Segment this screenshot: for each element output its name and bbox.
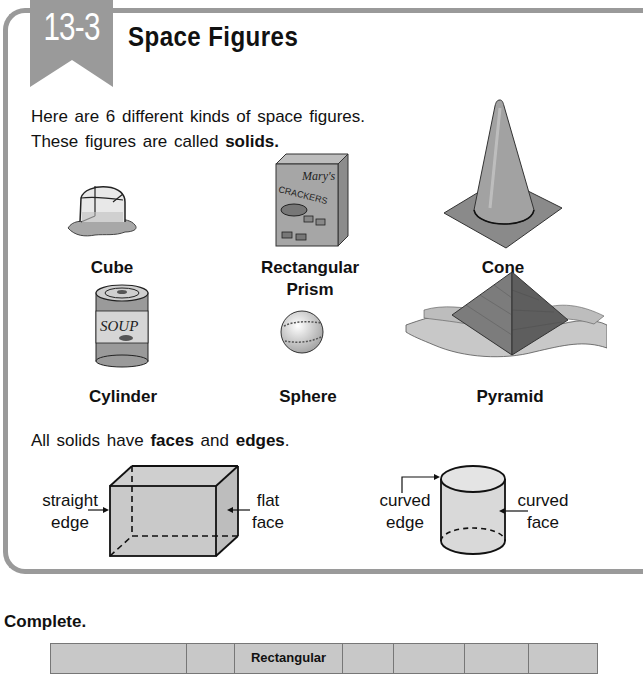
exercise-table: Rectangular bbox=[50, 643, 598, 674]
table-cell bbox=[343, 644, 394, 674]
table-header-row: Rectangular bbox=[51, 644, 598, 674]
table-cell bbox=[187, 644, 235, 674]
exercise-heading: Complete. bbox=[4, 612, 86, 632]
table-cell bbox=[51, 644, 187, 674]
table-cell: Rectangular bbox=[235, 644, 343, 674]
table-cell bbox=[394, 644, 465, 674]
table-cell bbox=[465, 644, 529, 674]
table-cell bbox=[529, 644, 598, 674]
curved-edge-label: curved edge bbox=[375, 490, 435, 534]
curved-face-label: curved face bbox=[513, 490, 573, 534]
